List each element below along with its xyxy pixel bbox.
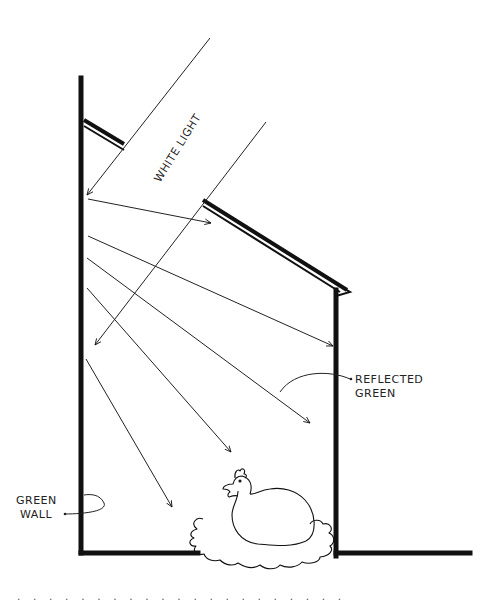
green-wall-pointer: [65, 495, 104, 514]
structure: [81, 78, 470, 556]
sloped-roof: [84, 120, 350, 296]
hen-on-nest: [190, 469, 334, 569]
reflected-green-label-line2: GREEN: [355, 387, 396, 400]
white-light-label: WHITE LIGHT: [152, 112, 204, 185]
green-wall-label-line2: WALL: [20, 508, 52, 521]
hen-eye: [239, 480, 241, 482]
ray-5: [86, 359, 172, 507]
white-light-beam: [87, 38, 266, 345]
footer-dotted-rule: . . . . . . . . . . . . . . . . . . . . …: [16, 593, 345, 602]
ray-4: [87, 288, 231, 452]
reflected-green-label-line1: REFLECTED: [355, 373, 423, 386]
coop-diagram: WHITE LIGHT REFLECTED GREEN GREEN WALL: [0, 0, 488, 602]
ray-2: [88, 236, 333, 346]
reflected-rays: [86, 199, 333, 507]
green-wall-annotation: GREEN WALL: [16, 494, 104, 521]
green-wall-label-line1: GREEN: [16, 494, 57, 507]
hen-body: [232, 488, 314, 545]
nest: [190, 518, 334, 568]
ray-3: [87, 258, 310, 423]
reflected-green-annotation: REFLECTED GREEN: [280, 373, 423, 400]
ray-1: [88, 199, 211, 223]
hen-head: [223, 476, 251, 497]
reflected-green-pointer: [280, 373, 350, 392]
